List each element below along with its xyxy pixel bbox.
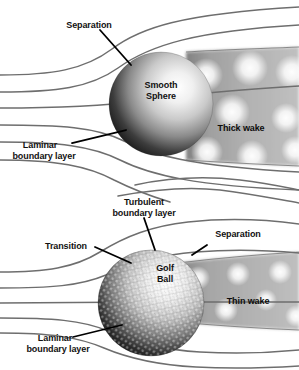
label-separation-bottom: Separation [199,229,277,240]
smooth-sphere-panel [0,7,299,202]
leader-separation-bottom [192,245,207,255]
label-smooth-sphere-line1: Smooth [126,80,196,91]
label-smooth-sphere-line2: Sphere [126,91,196,102]
label-laminar-top-line2: boundary layer [2,151,86,162]
label-laminar-bottom-line1: Laminar [24,333,86,344]
label-golf-ball-line2: Ball [141,274,189,285]
label-golf-ball-line1: Golf [141,263,189,274]
label-thick-wake: Thick wake [203,123,279,134]
leader-turbulent [144,218,155,250]
label-transition: Transition [36,241,96,252]
label-laminar-top-line1: Laminar [9,140,71,151]
label-separation-top: Separation [50,20,128,31]
fluid-flow-diagram: Separation Smooth Sphere Thick wake Lami… [0,0,299,370]
label-thin-wake: Thin wake [213,296,283,307]
smooth-sphere [109,52,213,156]
label-turbulent-line1: Turbulent [106,197,182,208]
label-turbulent-line2: boundary layer [96,208,192,219]
leader-separation-top [100,30,131,65]
label-laminar-bottom-line2: boundary layer [16,344,100,355]
diagram-canvas [0,0,299,370]
leader-transition [95,247,131,263]
